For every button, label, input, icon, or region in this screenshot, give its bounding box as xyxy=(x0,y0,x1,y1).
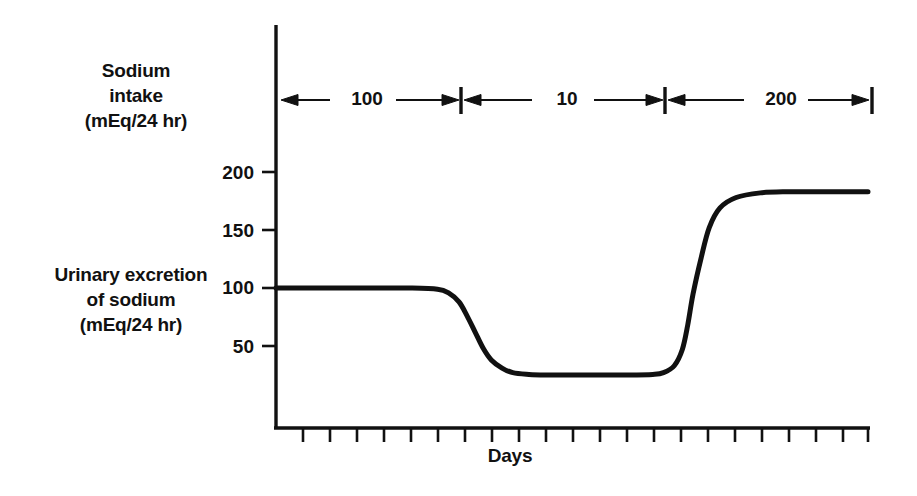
data-series-urinary-sodium xyxy=(276,192,868,375)
arrow-head-right-2 xyxy=(646,95,663,106)
phase-span-10 xyxy=(464,95,663,106)
sodium-balance-figure: Sodium intake (mEq/24 hr) Urinary excret… xyxy=(0,0,917,496)
plot-canvas xyxy=(0,0,917,496)
arrow-head-right-3 xyxy=(852,95,869,106)
phase-span-100 xyxy=(281,95,459,106)
intake-annotation-bar xyxy=(281,87,872,114)
x-tick-marks xyxy=(303,428,868,442)
arrow-head-left-3 xyxy=(668,95,685,106)
phase-span-200 xyxy=(668,95,869,106)
axis-lines xyxy=(274,25,870,429)
arrow-head-right-1 xyxy=(442,95,459,106)
arrow-head-left-2 xyxy=(464,95,481,106)
y-tick-marks xyxy=(262,172,276,346)
arrow-head-left-1 xyxy=(281,95,298,106)
